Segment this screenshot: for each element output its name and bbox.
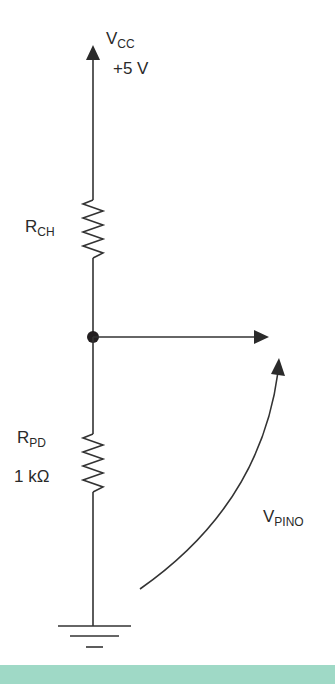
rch-subscript: CH: [37, 225, 54, 239]
vcc-label: VCC: [106, 30, 135, 50]
resistor-rpd-icon: [83, 434, 103, 492]
vpino-label: VPINO: [263, 508, 304, 528]
rpd-label: RPD: [17, 429, 46, 449]
ground-icon: [58, 626, 131, 647]
rpd-value-label: 1 kΩ: [14, 468, 49, 485]
vpino-subscript: PINO: [274, 515, 303, 529]
circuit-diagram: [0, 0, 335, 684]
vcc-value-label: +5 V: [113, 60, 148, 77]
rch-symbol: R: [25, 217, 37, 236]
rpd-symbol: R: [17, 428, 29, 447]
rpd-subscript: PD: [29, 436, 46, 450]
vcc-symbol: V: [106, 29, 117, 48]
vpino-symbol: V: [263, 507, 274, 526]
vcc-supply-arrow: [86, 45, 100, 200]
rch-label: RCH: [25, 218, 55, 238]
vcc-subscript: CC: [117, 37, 134, 51]
output-arrow: [93, 330, 269, 344]
vpino-voltage-arrow: [140, 358, 285, 589]
resistor-rch-icon: [83, 200, 103, 258]
bottom-color-band: [0, 665, 335, 684]
